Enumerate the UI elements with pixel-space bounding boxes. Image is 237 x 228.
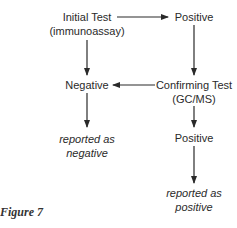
node-initial-test: Initial Test (immunoassay) xyxy=(49,10,124,38)
reported-negative-line1: reported as xyxy=(59,132,115,146)
node-positive-2: Positive xyxy=(175,131,214,145)
initial-test-method: (immunoassay) xyxy=(49,24,124,38)
node-positive-1: Positive xyxy=(175,10,214,24)
node-reported-positive: reported as positive xyxy=(166,186,222,214)
node-negative: Negative xyxy=(65,78,108,92)
confirming-test-label: Confirming Test xyxy=(156,78,232,92)
positive-2-label: Positive xyxy=(175,131,214,145)
node-confirming-test: Confirming Test (GC/MS) xyxy=(156,78,232,106)
positive-1-label: Positive xyxy=(175,10,214,24)
node-reported-negative: reported as negative xyxy=(59,132,115,160)
negative-label: Negative xyxy=(65,78,108,92)
figure-caption: Figure 7 xyxy=(0,205,43,220)
reported-positive-line2: positive xyxy=(166,200,222,214)
reported-negative-line2: negative xyxy=(59,146,115,160)
initial-test-label: Initial Test xyxy=(49,10,124,24)
confirming-test-method: (GC/MS) xyxy=(156,92,232,106)
reported-positive-line1: reported as xyxy=(166,186,222,200)
